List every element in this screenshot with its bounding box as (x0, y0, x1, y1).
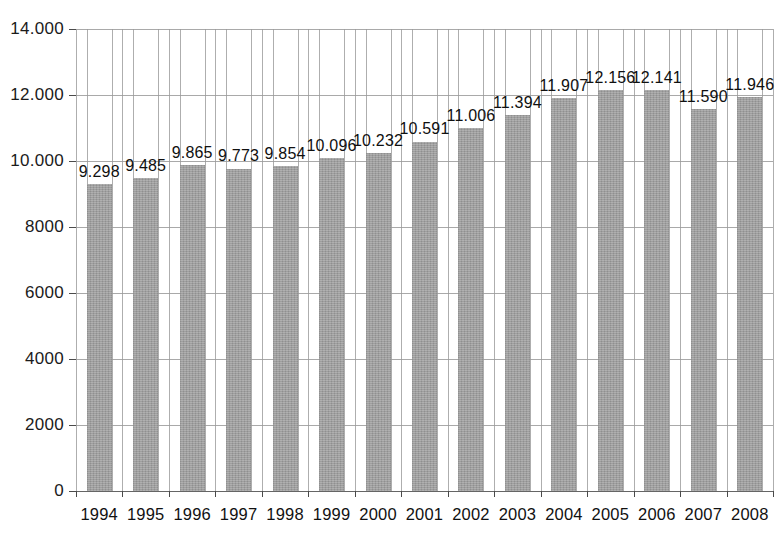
bar-1999 (319, 158, 344, 491)
bar-value-label-1997: 9.773 (218, 147, 259, 165)
y-tick-label: 12.000 (0, 85, 64, 105)
bar-1995 (133, 178, 158, 491)
y-tick-mark (69, 227, 76, 228)
x-tick-mark (494, 491, 495, 497)
x-tick-mark (773, 491, 774, 497)
bar-value-label-1995: 9.485 (125, 157, 166, 175)
gridline-vertical (76, 29, 77, 491)
x-tick-mark (76, 491, 77, 497)
bar-1998 (273, 166, 298, 491)
x-tick-mark (634, 491, 635, 497)
y-tick-label: 10.000 (0, 151, 64, 171)
bar-2002 (458, 128, 483, 491)
gridline-vertical (483, 29, 484, 491)
x-tick-label-1997: 1997 (220, 505, 258, 524)
gridline-vertical (773, 29, 774, 491)
x-tick-mark (401, 491, 402, 497)
bar-value-label-2003: 11.394 (493, 94, 542, 112)
bar-2001 (412, 142, 437, 492)
y-tick-label: 4000 (0, 349, 64, 369)
gridline-vertical (262, 29, 263, 491)
bar-2007 (691, 109, 716, 491)
x-tick-label-1996: 1996 (173, 505, 211, 524)
gridline-vertical (587, 29, 588, 491)
gridline-vertical (355, 29, 356, 491)
x-tick-mark (448, 491, 449, 497)
bar-value-label-2002: 11.006 (446, 107, 495, 125)
x-tick-mark (308, 491, 309, 497)
gridline-vertical (251, 29, 252, 491)
x-tick-label-2004: 2004 (545, 505, 583, 524)
x-tick-label-2008: 2008 (731, 505, 769, 524)
gridline-vertical (669, 29, 670, 491)
x-tick-label-1995: 1995 (127, 505, 165, 524)
gridline-vertical (215, 29, 216, 491)
x-tick-label-2007: 2007 (685, 505, 723, 524)
x-tick-label-2000: 2000 (359, 505, 397, 524)
gridline-vertical (298, 29, 299, 491)
gridline-vertical (437, 29, 438, 491)
x-tick-label-1994: 1994 (80, 505, 118, 524)
bar-1994 (87, 184, 112, 491)
x-tick-label-2003: 2003 (499, 505, 537, 524)
bar-chart: 9.2989.4859.8659.7739.85410.09610.23210.… (0, 0, 784, 541)
gridline-vertical (344, 29, 345, 491)
bar-2003 (505, 115, 530, 491)
y-tick-mark (69, 491, 76, 492)
y-tick-mark (69, 95, 76, 96)
bar-value-label-2007: 11.590 (679, 88, 728, 106)
bar-value-label-1996: 9.865 (172, 144, 213, 162)
gridline-vertical (122, 29, 123, 491)
gridline-vertical (448, 29, 449, 491)
bar-2000 (366, 153, 391, 491)
y-tick-mark (69, 359, 76, 360)
y-tick-label: 6000 (0, 283, 64, 303)
y-tick-mark (69, 161, 76, 162)
bar-value-label-2005: 12.156 (585, 69, 635, 87)
bar-value-label-2006: 12.141 (632, 69, 682, 87)
x-tick-label-2005: 2005 (592, 505, 630, 524)
gridline-vertical (762, 29, 763, 491)
gridline-vertical (391, 29, 392, 491)
y-tick-mark (69, 29, 76, 30)
x-tick-mark (355, 491, 356, 497)
bar-value-label-2000: 10.232 (353, 132, 403, 150)
bar-1996 (180, 165, 205, 491)
plot-area: 9.2989.4859.8659.7739.85410.09610.23210.… (76, 29, 773, 491)
gridline-vertical (576, 29, 577, 491)
x-tick-mark (262, 491, 263, 497)
bar-2004 (551, 98, 576, 491)
x-tick-label-2006: 2006 (638, 505, 676, 524)
bar-1997 (226, 169, 251, 492)
x-tick-mark (680, 491, 681, 497)
x-tick-mark (122, 491, 123, 497)
x-tick-mark (215, 491, 216, 497)
gridline-vertical (634, 29, 635, 491)
gridline-vertical (401, 29, 402, 491)
bar-2008 (737, 97, 762, 491)
bar-value-label-1998: 9.854 (265, 145, 306, 163)
bar-value-label-1994: 9.298 (79, 163, 120, 181)
x-tick-label-1999: 1999 (313, 505, 351, 524)
y-tick-mark (69, 425, 76, 426)
gridline-vertical (158, 29, 159, 491)
y-tick-label: 0 (0, 481, 64, 501)
bar-2005 (598, 90, 623, 491)
gridline-vertical (308, 29, 309, 491)
bar-value-label-2001: 10.591 (399, 120, 449, 138)
x-tick-mark (587, 491, 588, 497)
y-tick-label: 8000 (0, 217, 64, 237)
x-tick-mark (169, 491, 170, 497)
y-tick-label: 2000 (0, 415, 64, 435)
gridline-vertical (112, 29, 113, 491)
y-tick-label: 14.000 (0, 19, 64, 39)
y-tick-mark (69, 293, 76, 294)
gridline-vertical (623, 29, 624, 491)
x-tick-label-2002: 2002 (452, 505, 490, 524)
x-tick-mark (727, 491, 728, 497)
x-tick-label-2001: 2001 (406, 505, 444, 524)
bar-value-label-2004: 11.907 (539, 77, 588, 95)
x-tick-mark (541, 491, 542, 497)
bar-value-label-2008: 11.946 (725, 76, 774, 94)
gridline-vertical (169, 29, 170, 491)
